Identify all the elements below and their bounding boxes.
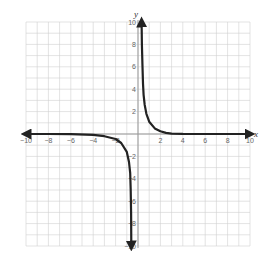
x-tick-label: −8 (44, 137, 52, 144)
y-tick-label: 8 (132, 41, 136, 48)
y-tick-label: 10 (128, 19, 136, 26)
x-axis-label: x (253, 129, 258, 139)
x-tick-label: 4 (181, 137, 185, 144)
y-tick-label: −10 (124, 243, 136, 250)
y-tick-label: 6 (132, 63, 136, 70)
x-tick-label: −4 (89, 137, 97, 144)
y-tick-label: 2 (132, 108, 136, 115)
y-tick-label: 4 (132, 86, 136, 93)
y-tick-label: −6 (128, 198, 136, 205)
y-axis-label: y (133, 9, 138, 19)
x-tick-label: 8 (226, 137, 230, 144)
x-tick-label: 10 (246, 137, 254, 144)
x-tick-label: −6 (67, 137, 75, 144)
x-tick-label: 6 (203, 137, 207, 144)
graph: −10−8−6−4−2246810108642−2−4−6−8−10 x y (0, 0, 270, 266)
x-tick-label: −10 (20, 137, 32, 144)
x-tick-label: 2 (158, 137, 162, 144)
